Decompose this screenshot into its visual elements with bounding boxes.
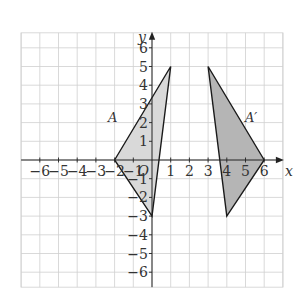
y-axis-label: y bbox=[137, 29, 147, 45]
coordinate-plane: −6−5−4−3−2−1123456−6−5−4−3−2−1123456Oxy … bbox=[0, 0, 299, 308]
x-tick-label: 2 bbox=[185, 163, 194, 179]
y-tick-label: −3 bbox=[127, 208, 148, 224]
y-tick-label: 4 bbox=[139, 77, 148, 93]
y-tick-label: −6 bbox=[127, 264, 148, 280]
y-tick-label: 3 bbox=[139, 96, 148, 112]
x-tick-label: 1 bbox=[166, 163, 175, 179]
origin-label: O bbox=[138, 163, 150, 179]
x-tick-label: −2 bbox=[104, 163, 125, 179]
x-tick-label: −3 bbox=[86, 163, 107, 179]
x-tick-label: −5 bbox=[48, 163, 69, 179]
y-tick-label: −5 bbox=[127, 246, 148, 262]
x-tick-label: 3 bbox=[204, 163, 213, 179]
axes bbox=[21, 32, 284, 287]
x-tick-label: −4 bbox=[67, 163, 88, 179]
y-tick-label: 5 bbox=[139, 59, 148, 75]
y-tick-label: 1 bbox=[139, 133, 148, 149]
y-tick-label: −4 bbox=[127, 227, 148, 243]
x-axis-label: x bbox=[285, 163, 293, 179]
y-tick-label: −2 bbox=[127, 189, 148, 205]
y-tick-label: 2 bbox=[139, 115, 148, 131]
x-tick-label: 6 bbox=[260, 163, 269, 179]
x-tick-label: −6 bbox=[29, 163, 50, 179]
x-tick-label: 4 bbox=[222, 163, 231, 179]
label-A: A bbox=[107, 110, 117, 125]
x-tick-label: 5 bbox=[241, 163, 250, 179]
label-A-prime: A′ bbox=[244, 110, 257, 125]
